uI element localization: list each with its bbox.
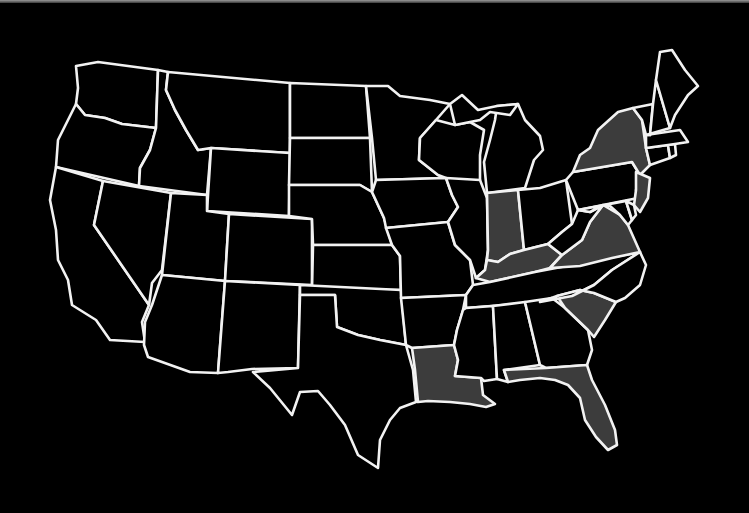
state-nd[interactable] — [290, 83, 370, 138]
state-wy[interactable] — [207, 148, 290, 216]
state-mi[interactable] — [484, 104, 543, 193]
state-fl[interactable] — [504, 365, 617, 450]
state-nm[interactable] — [218, 281, 300, 373]
us-map — [0, 0, 749, 513]
state-co[interactable] — [225, 214, 312, 285]
state-ks[interactable] — [312, 245, 401, 290]
state-az[interactable] — [144, 275, 225, 373]
state-ms[interactable] — [454, 306, 497, 381]
state-ia[interactable] — [372, 178, 458, 228]
state-ny[interactable] — [573, 108, 650, 175]
state-nj[interactable] — [634, 172, 650, 212]
